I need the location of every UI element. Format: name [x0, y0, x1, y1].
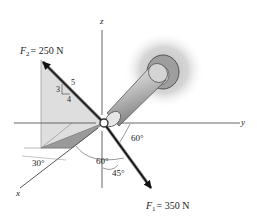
- angle-60-y-label: 60°: [131, 133, 144, 143]
- y-axis-label: y: [240, 117, 245, 127]
- svg-text:4: 4: [67, 95, 71, 104]
- f2-projection-plane: [41, 60, 104, 148]
- angle-30-label: 30°: [32, 158, 45, 168]
- origin-ring: [100, 119, 108, 127]
- angle-45-label: 45°: [112, 168, 125, 178]
- x-axis-label: x: [15, 188, 20, 198]
- svg-text:3: 3: [56, 85, 60, 94]
- angle-60-x-label: 60°: [96, 156, 109, 166]
- z-axis-label: z: [99, 16, 104, 26]
- svg-text:5: 5: [71, 78, 75, 87]
- force-f1-arrow: [106, 126, 151, 188]
- f2-label: F2= 250 N: [19, 45, 63, 58]
- force-diagram: 3 4 5 z y x F2= 250 N F1= 350 N 30° 60° …: [0, 0, 257, 218]
- f1-label: F1= 350 N: [145, 200, 189, 213]
- svg-text:F1= 350 N: F1= 350 N: [145, 200, 189, 213]
- svg-text:F2= 250 N: F2= 250 N: [19, 45, 63, 58]
